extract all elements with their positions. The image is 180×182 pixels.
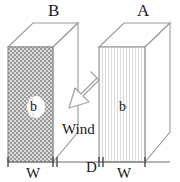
- building-right-top-label: A: [137, 2, 149, 19]
- building-right-face-label: b: [119, 100, 126, 114]
- building-wind-diagram: B A b b Wind W D W: [0, 0, 180, 182]
- wind-label: Wind: [62, 122, 95, 137]
- dimension-label-gap: D: [86, 160, 97, 175]
- building-right: [99, 23, 170, 162]
- right-side-face: [145, 23, 170, 162]
- building-left-top-label: B: [48, 2, 59, 19]
- building-left-face-label: b: [30, 100, 37, 114]
- building-left: [8, 23, 78, 162]
- dimension-label-left-width: W: [26, 166, 40, 181]
- dimension-label-right-width: W: [117, 166, 131, 181]
- diagram-canvas: [0, 0, 180, 182]
